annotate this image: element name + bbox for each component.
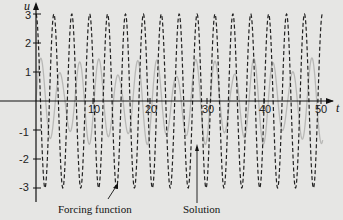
x-tick-50: 50 bbox=[315, 103, 327, 115]
axes bbox=[0, 2, 334, 202]
x-tick-40: 40 bbox=[259, 103, 271, 115]
y-tick-3: 3 bbox=[25, 9, 31, 21]
y-axis-arrow-icon bbox=[33, 2, 39, 10]
forcing-function-label: Forcing function bbox=[58, 203, 132, 215]
solution-label: Solution bbox=[183, 203, 220, 215]
y-tick-neg1: -1 bbox=[19, 126, 29, 138]
y-tick-1: 1 bbox=[25, 66, 31, 78]
chart-canvas bbox=[0, 0, 343, 220]
x-tick-30: 30 bbox=[202, 103, 214, 115]
y-tick-neg3: -3 bbox=[19, 181, 29, 193]
x-tick-20: 20 bbox=[145, 103, 157, 115]
forcing-function-arrowhead-icon bbox=[113, 183, 118, 189]
x-tick-10: 10 bbox=[88, 103, 100, 115]
x-axis-label: t bbox=[336, 101, 339, 116]
y-tick-neg2: -2 bbox=[19, 153, 29, 165]
solution-arrowhead-icon bbox=[195, 144, 199, 151]
y-tick-2: 2 bbox=[25, 37, 31, 49]
